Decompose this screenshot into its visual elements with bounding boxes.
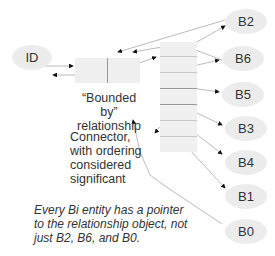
b-node-b2: B2 xyxy=(225,9,267,34)
connector-slot-divider xyxy=(160,104,197,105)
id-node: ID xyxy=(12,45,52,70)
b-node-b4: B4 xyxy=(225,150,267,175)
b-node-label: B4 xyxy=(238,155,254,170)
b-node-b0: B0 xyxy=(225,219,267,244)
b-node-label: B3 xyxy=(238,121,254,136)
footnote: Every Bi entity has a pointer to the rel… xyxy=(34,203,187,245)
b-node-label: B0 xyxy=(238,224,254,239)
id-node-label: ID xyxy=(26,50,39,65)
connector-slot-divider xyxy=(160,136,197,137)
connector-label-line: Connector, xyxy=(70,130,142,144)
b-node-b5: B5 xyxy=(222,82,264,107)
connector-slot-divider xyxy=(160,72,197,73)
b-node-label: B6 xyxy=(235,51,251,66)
footnote-line: Every Bi entity has a pointer xyxy=(34,203,187,217)
footnote-line: just B2, B6, and B0. xyxy=(34,231,187,245)
connector-label: Connector, with ordering considered sign… xyxy=(70,130,142,186)
connector-column xyxy=(160,42,197,152)
relationship-object xyxy=(75,58,140,83)
b-node-b1: B1 xyxy=(225,184,267,209)
connector-label-line: significant xyxy=(70,172,142,186)
b-node-b6: B6 xyxy=(222,46,264,71)
footnote-line: to the relationship object, not xyxy=(34,217,187,231)
connector-slot-divider xyxy=(160,88,197,89)
b-node-label: B2 xyxy=(238,14,254,29)
connector-label-line: with ordering xyxy=(70,144,142,158)
b-node-label: B1 xyxy=(238,189,254,204)
relationship-label-line: “Bounded by” xyxy=(73,91,145,119)
b-node-b3: B3 xyxy=(225,116,267,141)
relationship-divider xyxy=(107,58,108,83)
relationship-label: “Bounded by” relationship xyxy=(73,91,145,133)
b-node-label: B5 xyxy=(235,87,251,102)
connector-slot-divider xyxy=(160,120,197,121)
connector-label-line: considered xyxy=(70,158,142,172)
connector-slot-divider xyxy=(160,56,197,57)
